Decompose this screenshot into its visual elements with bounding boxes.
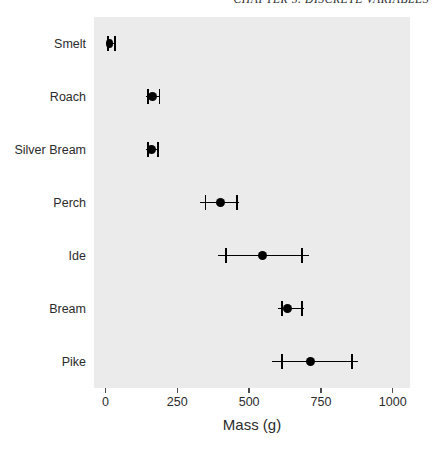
error-bar-cap-low	[281, 301, 283, 316]
error-bar-cap-high	[351, 354, 353, 369]
y-axis-tick-label: Ide	[69, 249, 86, 263]
x-axis-tick	[320, 388, 321, 393]
mean-point-marker	[258, 251, 267, 260]
error-bar-cap-high	[157, 142, 159, 157]
y-axis-tick-label: Roach	[50, 90, 86, 104]
mean-point-marker	[306, 357, 315, 366]
error-bar-cap-high	[114, 36, 116, 51]
mean-point-marker	[106, 39, 113, 48]
x-axis-tick	[177, 388, 178, 393]
x-axis-title: Mass (g)	[94, 416, 410, 433]
error-bar-cap-low	[281, 354, 283, 369]
error-bar-cap-low	[205, 195, 207, 210]
error-bar-cap-high	[159, 89, 161, 104]
x-axis-tick-label: 750	[311, 395, 332, 409]
mean-point-marker	[216, 198, 225, 207]
x-axis-tick-label: 1000	[379, 395, 407, 409]
whisker-line	[272, 361, 358, 363]
x-axis: 02505007501000	[94, 388, 410, 418]
error-bar-cap-low	[225, 248, 227, 263]
y-axis-tick-label: Pike	[62, 355, 86, 369]
y-axis-tick-label: Smelt	[54, 37, 86, 51]
x-axis-tick-label: 500	[239, 395, 260, 409]
y-axis-category-labels: SmeltRoachSilver BreamPerchIdeBreamPike	[0, 0, 86, 461]
x-axis-tick-label: 250	[167, 395, 188, 409]
mean-point-marker	[147, 145, 156, 154]
error-bar-cap-high	[301, 248, 303, 263]
y-axis-tick-label: Perch	[53, 196, 86, 210]
error-bar-cap-high	[301, 301, 303, 316]
x-axis-tick	[392, 388, 393, 393]
x-axis-tick	[248, 388, 249, 393]
mean-point-marker	[283, 304, 292, 313]
x-axis-tick-label: 0	[102, 395, 109, 409]
plot-panel	[94, 17, 410, 388]
y-axis-tick-label: Silver Bream	[14, 143, 86, 157]
error-bar-cap-high	[236, 195, 238, 210]
mean-point-marker	[148, 92, 157, 101]
fish-mass-error-bar-chart: SmeltRoachSilver BreamPerchIdeBreamPike …	[0, 0, 437, 461]
y-axis-tick-label: Bream	[49, 302, 86, 316]
x-axis-tick	[105, 388, 106, 393]
